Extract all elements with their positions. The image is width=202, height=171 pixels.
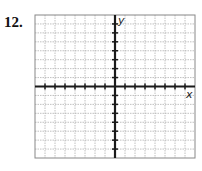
x-axis-label: x: [185, 88, 193, 101]
y-axis-label: y: [117, 14, 125, 27]
axes: [35, 15, 195, 158]
coordinate-grid: x y: [0, 0, 202, 171]
